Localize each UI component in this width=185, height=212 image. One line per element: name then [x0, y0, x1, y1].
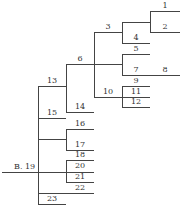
node-label-21: 21: [75, 173, 85, 181]
node-label-15: 15: [47, 109, 57, 117]
node-label-7: 7: [133, 66, 138, 74]
node-label-16: 16: [75, 120, 85, 128]
node-label-23: 23: [47, 195, 57, 203]
node-label-1: 1: [162, 2, 167, 10]
node-label-20: 20: [75, 162, 85, 170]
node-label-9: 9: [133, 77, 138, 85]
node-label-6: 6: [77, 55, 82, 63]
node-label-8: 8: [162, 66, 167, 74]
node-label-2: 2: [162, 23, 167, 31]
node-label-17: 17: [75, 141, 85, 149]
root-label: B. 19: [14, 163, 35, 171]
node-label-22: 22: [75, 184, 85, 192]
node-label-14: 14: [75, 103, 85, 111]
node-label-5: 5: [133, 45, 138, 53]
node-label-3: 3: [105, 23, 110, 31]
node-label-13: 13: [47, 77, 57, 85]
node-label-11: 11: [131, 88, 141, 96]
node-label-12: 12: [131, 98, 141, 106]
node-label-18: 18: [75, 151, 85, 159]
node-label-4: 4: [133, 34, 138, 42]
node-label-10: 10: [103, 88, 113, 96]
dendrogram-lines: [0, 0, 185, 212]
